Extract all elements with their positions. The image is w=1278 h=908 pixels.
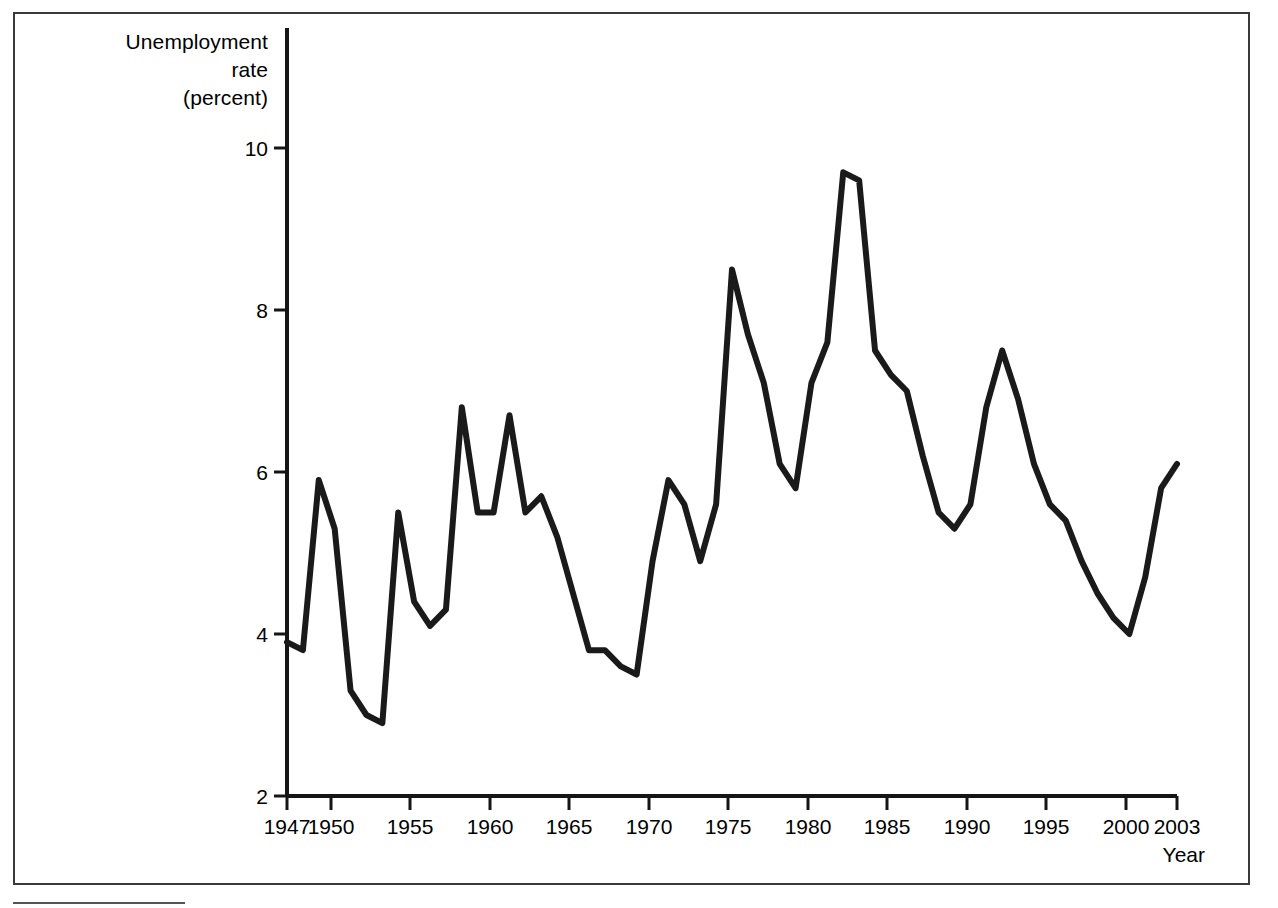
chart-plot-area bbox=[0, 0, 1278, 908]
figure-container: Unemployment rate (percent) Year 10 8 6 … bbox=[0, 0, 1278, 908]
x-axis-tick-marks bbox=[287, 796, 1177, 810]
axis-lines bbox=[287, 28, 1177, 796]
unemployment-rate-line bbox=[287, 172, 1177, 723]
